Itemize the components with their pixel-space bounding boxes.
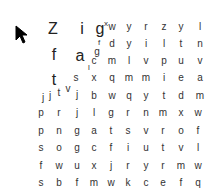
letter-tile[interactable]: s [126, 126, 131, 136]
letter-tile[interactable]: i [145, 39, 147, 49]
letter-tile[interactable]: r [126, 108, 129, 118]
letter-tile[interactable]: j [42, 93, 44, 103]
letter-tile[interactable]: c [92, 143, 97, 153]
letter-tile[interactable]: t [52, 72, 56, 88]
letter-tile[interactable]: s [39, 143, 44, 153]
letter-tile[interactable]: f [76, 178, 79, 188]
letter-tile[interactable]: l [199, 22, 201, 32]
letter-tile[interactable]: y [144, 161, 149, 171]
letter-tile[interactable]: v [179, 143, 184, 153]
letter-tile[interactable]: c [92, 56, 97, 66]
letter-tile[interactable]: w [194, 108, 201, 118]
letter-tile[interactable]: v [144, 56, 149, 66]
letter-tile[interactable]: Z [48, 21, 58, 37]
letter-tile[interactable]: w [108, 91, 115, 101]
letter-tile[interactable]: q [195, 178, 201, 188]
letter-tile[interactable]: j [76, 90, 78, 100]
letter-tile[interactable]: m [159, 108, 167, 118]
letter-tile[interactable]: r [161, 126, 164, 136]
letter-tile[interactable]: y [127, 22, 132, 32]
letter-tile[interactable]: x [92, 161, 97, 171]
letter-tile[interactable]: e [178, 73, 184, 83]
letter-tile[interactable]: t [58, 88, 61, 98]
letter-tile[interactable]: j [49, 91, 51, 101]
letter-tile[interactable]: w [107, 178, 114, 188]
letter-tile[interactable]: r [57, 108, 60, 118]
letter-tile[interactable]: s [74, 73, 79, 83]
letter-tile[interactable]: p [38, 126, 44, 136]
letter-tile[interactable]: p [161, 56, 167, 66]
letter-tile[interactable]: f [40, 161, 43, 171]
letter-tile[interactable]: c [144, 178, 149, 188]
letter-tile[interactable]: g [74, 143, 80, 153]
letter-tile[interactable]: m [142, 73, 150, 83]
letter-tile[interactable]: n [197, 39, 203, 49]
letter-tile[interactable]: l [163, 39, 165, 49]
letter-tile[interactable]: j [110, 161, 112, 171]
letter-tile[interactable]: y [127, 39, 132, 49]
letter-tile[interactable]: w [55, 161, 62, 171]
letter-tile[interactable]: d [178, 91, 184, 101]
letter-tile[interactable]: g [74, 126, 80, 136]
letter-tile[interactable]: b [56, 178, 62, 188]
letter-tile[interactable]: q [126, 91, 132, 101]
letter-tile[interactable]: m [177, 161, 185, 171]
letter-tile[interactable]: g [108, 108, 114, 118]
letter-tile[interactable]: f [197, 126, 200, 136]
letter-tile[interactable]: u [143, 143, 149, 153]
arrow-cursor-icon [15, 25, 29, 45]
letter-tile[interactable]: m [196, 91, 204, 101]
letter-tile[interactable]: d [109, 39, 115, 49]
letter-tile[interactable]: p [38, 108, 44, 118]
letter-tile[interactable]: i [163, 73, 165, 83]
letter-tile[interactable]: f [110, 143, 113, 153]
letter-tile[interactable]: l [93, 108, 95, 118]
letter-tile[interactable]: i [80, 21, 84, 37]
letter-tile[interactable]: f [52, 47, 56, 63]
letter-tile[interactable]: f [180, 178, 183, 188]
letter-tile[interactable]: s [39, 178, 44, 188]
letter-tile[interactable]: l [197, 143, 199, 153]
letter-tile[interactable]: l [128, 56, 130, 66]
letter-tile[interactable]: t [110, 126, 113, 136]
letter-tile[interactable]: r [161, 161, 164, 171]
letter-tile[interactable]: r [144, 22, 147, 32]
letter-tile[interactable]: z [162, 22, 167, 32]
letter-tile[interactable]: t [163, 91, 166, 101]
letter-tile[interactable]: m [108, 56, 116, 66]
letter-tile[interactable]: y [144, 91, 149, 101]
letter-tile[interactable]: v [144, 126, 149, 136]
letter-tile[interactable]: n [143, 108, 149, 118]
letter-tile[interactable]: x [92, 73, 97, 83]
letter-tile[interactable]: w [194, 161, 201, 171]
letter-tile[interactable]: n [56, 126, 62, 136]
letter-tile[interactable]: m [90, 178, 98, 188]
letter-tile[interactable]: a [76, 48, 85, 64]
letter-tile[interactable]: a [197, 73, 203, 83]
letter-tile[interactable]: b [91, 91, 97, 101]
letter-tile[interactable]: i [127, 143, 129, 153]
letter-tile[interactable]: v [198, 56, 203, 66]
letter-tile[interactable]: f [98, 39, 100, 47]
letter-tile[interactable]: e [160, 178, 166, 188]
letter-tile[interactable]: u [178, 56, 184, 66]
letter-tile[interactable]: o [56, 143, 62, 153]
letter-tile[interactable]: x [179, 108, 184, 118]
letter-tile[interactable]: t [162, 143, 165, 153]
letter-tile[interactable]: w [108, 22, 115, 32]
letter-tile[interactable]: m [125, 73, 133, 83]
letter-tile[interactable]: v [66, 84, 71, 94]
letter-tile[interactable]: o [178, 126, 184, 136]
letter-tile[interactable]: k [126, 178, 131, 188]
letter-tile[interactable]: a [91, 126, 97, 136]
letter-tile[interactable]: y [179, 22, 184, 32]
letter-tile[interactable]: t [180, 39, 183, 49]
letter-tile[interactable]: j [76, 108, 78, 118]
letter-tile[interactable]: r [126, 161, 129, 171]
letter-tile[interactable]: q [109, 73, 115, 83]
letter-tile[interactable]: l [88, 64, 90, 72]
letter-tile[interactable]: u [74, 161, 80, 171]
